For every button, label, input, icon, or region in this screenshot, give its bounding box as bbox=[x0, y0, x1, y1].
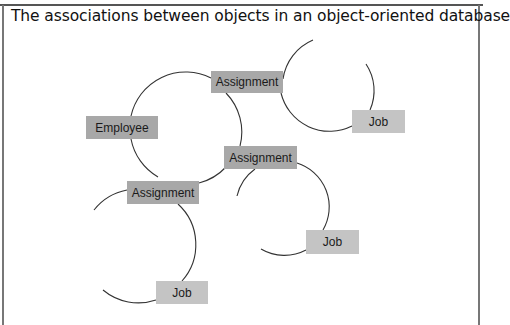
assignment-lower-left-circle-arc bbox=[94, 190, 127, 210]
assignment-lower-left-circle-arc bbox=[103, 290, 156, 303]
employee-circle-arc bbox=[131, 72, 211, 116]
assignment-lower-left-box: Assignment bbox=[127, 181, 199, 204]
assignment-top-circle-arc bbox=[366, 64, 374, 110]
assignment-top-circle-arc bbox=[283, 40, 313, 79]
employee-circle-arc bbox=[226, 93, 242, 146]
employee-box: Employee bbox=[86, 116, 158, 139]
employee-circle-arc bbox=[131, 139, 158, 177]
job-bottom-box: Job bbox=[156, 281, 208, 304]
employee-circle-arc bbox=[199, 167, 226, 183]
assignment-middle-circle-arc bbox=[297, 163, 329, 230]
assignment-top-box: Assignment bbox=[211, 71, 283, 93]
assignment-top-circle-arc bbox=[281, 93, 352, 131]
job-top-box: Job bbox=[352, 110, 405, 133]
assignment-middle-circle-arc bbox=[261, 249, 306, 255]
assignment-middle-circle-arc bbox=[237, 169, 255, 196]
assignment-middle-box: Assignment bbox=[224, 146, 297, 169]
job-middle-box: Job bbox=[306, 230, 359, 254]
assignment-lower-left-circle-arc bbox=[178, 204, 196, 281]
